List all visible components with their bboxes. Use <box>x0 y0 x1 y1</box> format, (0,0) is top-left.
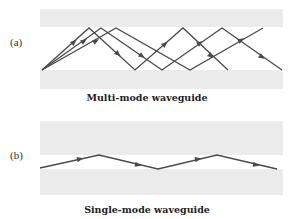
panel-a-caption: Multi-mode waveguide <box>0 92 295 103</box>
waveguide-diagram <box>0 0 295 219</box>
panel-a-label: (a) <box>10 36 22 48</box>
cladding-bottom <box>40 169 283 195</box>
cladding-bottom <box>40 70 283 89</box>
cladding-top <box>40 9 283 27</box>
light-rays <box>42 28 282 70</box>
panel-b-caption: Single-mode waveguide <box>0 204 295 215</box>
cladding-top <box>40 121 283 155</box>
light-rays <box>40 155 277 169</box>
panel-b-label: (b) <box>10 149 23 161</box>
single-mode-panel <box>40 121 283 195</box>
multi-mode-panel <box>40 9 283 89</box>
ray-single <box>40 155 277 169</box>
